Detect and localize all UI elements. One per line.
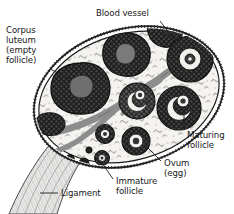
label-corpus-luteum-line-3: (empty: [6, 45, 36, 55]
label-ovum-line-2: (egg): [164, 168, 186, 178]
label-corpus-luteum-line-2: luteum: [6, 35, 36, 45]
maturing-follicle-small: [122, 127, 150, 155]
label-corpus-luteum-line-4: follicle): [6, 55, 36, 65]
corpus-luteum-upper: [103, 33, 151, 76]
label-ovum: Ovum (egg): [164, 158, 189, 178]
label-ovum-line-1: Ovum: [164, 158, 189, 168]
label-maturing-follicle-line-2: follicle: [187, 140, 214, 150]
label-immature-follicle-line-2: follicle: [116, 186, 143, 196]
label-blood-vessel: Blood vessel: [96, 8, 149, 18]
label-immature-follicle: Immature follicle: [116, 176, 157, 196]
corpus-luteum-cavity: [70, 75, 93, 98]
maturing-follicle-mid: [119, 83, 155, 119]
maturing-follicle-right-low: [157, 86, 201, 130]
ovary-diagram: Blood vessel Corpus luteum (empty follic…: [0, 0, 234, 214]
maturing-follicle-right-top: [167, 36, 213, 82]
label-maturing-follicle: Maturing follicle: [187, 130, 225, 150]
maturing-follicle-tiny: [96, 125, 115, 144]
label-corpus-luteum: Corpus luteum (empty follicle): [6, 25, 36, 65]
immature-follicle-dot-3: [86, 147, 92, 153]
corpus-luteum-large: [51, 63, 110, 114]
label-maturing-follicle-line-1: Maturing: [187, 130, 225, 140]
label-ligament: Ligament: [61, 188, 101, 198]
label-corpus-luteum-line-1: Corpus: [6, 25, 36, 35]
label-immature-follicle-line-1: Immature: [116, 176, 157, 186]
